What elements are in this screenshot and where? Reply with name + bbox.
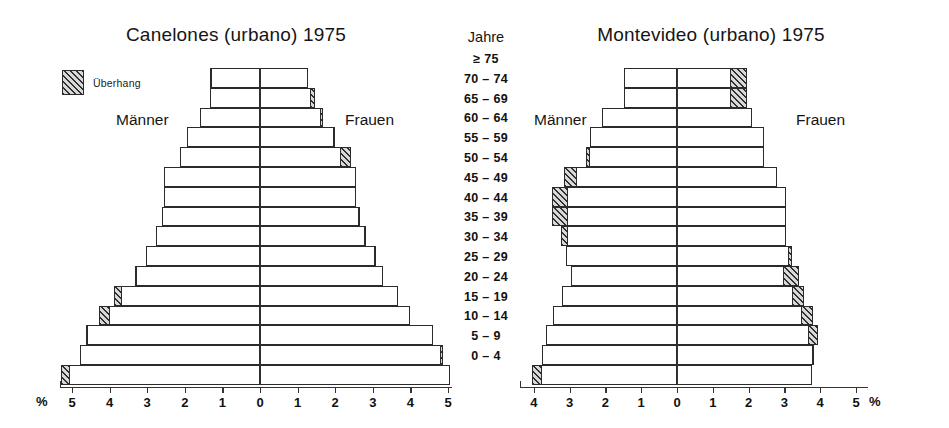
bar-male [80, 345, 260, 365]
bar-male [586, 147, 677, 167]
pyramid-row [0, 345, 472, 365]
bar-female [260, 127, 335, 147]
axis-tick-label: 1 [219, 395, 226, 410]
bar-male [210, 68, 260, 88]
overhang-block [564, 167, 577, 187]
bar-male [162, 207, 260, 227]
axis-unit-label: % [869, 394, 881, 409]
bar-female [260, 226, 366, 246]
pyramid-row [0, 246, 472, 266]
bar-male [552, 207, 677, 227]
axis-tick [72, 387, 73, 393]
overhang-block [812, 345, 814, 365]
bar-female [260, 266, 383, 286]
axis-tick-label: 5 [444, 395, 451, 410]
pyramid-row [0, 167, 472, 187]
bar-female [677, 286, 804, 306]
axis-tick [373, 387, 374, 393]
bar-male [61, 365, 260, 385]
bar-male [156, 226, 260, 246]
bar-male [532, 365, 677, 385]
pyramid-row [476, 68, 949, 88]
bar-male [553, 306, 677, 326]
bar-male [562, 286, 677, 306]
overhang-block [61, 365, 70, 385]
bar-male [86, 325, 260, 345]
overhang-block [340, 147, 350, 167]
bar-male [546, 325, 677, 345]
bar-male [561, 226, 677, 246]
overhang-block [808, 325, 819, 345]
male-label-montevideo: Männer [534, 111, 587, 129]
chart-panel-canelones: 54321012345% [0, 68, 472, 388]
bar-female [677, 365, 812, 385]
axis-tick [260, 387, 261, 393]
overhang-block [440, 345, 443, 365]
bar-female [260, 147, 351, 167]
pyramid-row [476, 88, 949, 108]
overhang-block [99, 306, 109, 326]
axis-tick-label: 4 [817, 395, 824, 410]
axis-tick [641, 387, 642, 393]
overhang-block [730, 88, 747, 108]
axis-tick [534, 387, 535, 393]
bar-female [260, 365, 450, 385]
pyramid-row [0, 365, 472, 385]
axis-tick-label: 2 [332, 395, 339, 410]
pyramid-row [0, 127, 472, 147]
bar-female [260, 286, 398, 306]
pyramid-row [0, 286, 472, 306]
axis-tick-label: 2 [745, 395, 752, 410]
axis-tick-label: 0 [673, 395, 680, 410]
bar-male [602, 108, 677, 128]
axis-tick [147, 387, 148, 393]
axis-tick-label: 1 [709, 395, 716, 410]
pyramid-row [476, 167, 949, 187]
overhang-block [210, 68, 212, 88]
bar-female [260, 88, 315, 108]
bar-male [590, 127, 677, 147]
axis-tick [784, 387, 785, 393]
overhang-block [364, 226, 366, 246]
chart-title-montevideo: Montevideo (urbano) 1975 [476, 24, 946, 46]
bar-female [260, 108, 323, 128]
pyramid-row [0, 325, 472, 345]
female-label-canelones: Frauen [345, 111, 394, 129]
horizontal-axis-line [520, 387, 868, 388]
bar-male [571, 266, 677, 286]
pyramid-row [476, 306, 949, 326]
axis-tick [570, 387, 571, 393]
overhang-block [374, 246, 376, 266]
bar-female [260, 187, 356, 207]
bar-female [260, 68, 308, 88]
bar-male [624, 88, 677, 108]
pyramid-row [476, 345, 949, 365]
axis-tick [605, 387, 606, 393]
overhang-block [86, 325, 88, 345]
hatched-overhang-swatch [62, 70, 84, 95]
bar-female [677, 246, 792, 266]
axis-tick [298, 387, 299, 393]
axis-tick-label: 3 [144, 395, 151, 410]
pyramid-row [476, 207, 949, 227]
axis-tick-label: 3 [781, 395, 788, 410]
bar-male [187, 127, 260, 147]
pyramid-row [476, 127, 949, 147]
bar-male [200, 108, 260, 128]
pyramid-row [476, 246, 949, 266]
bar-male [566, 246, 677, 266]
overhang-block [310, 88, 315, 108]
axis-tick-label: 1 [638, 395, 645, 410]
plot-area-canelones: 54321012345% [0, 68, 472, 385]
axis-tick-label: 3 [369, 395, 376, 410]
overhang-block [561, 226, 568, 246]
axis-tick [185, 387, 186, 393]
overhang-block [730, 68, 747, 88]
pyramid-row [476, 226, 949, 246]
bar-female [677, 306, 813, 326]
bar-female [677, 266, 799, 286]
overhang-block [801, 306, 814, 326]
center-axis-line [677, 68, 678, 385]
age-axis-header: Jahre [440, 24, 532, 50]
bar-male [564, 167, 677, 187]
